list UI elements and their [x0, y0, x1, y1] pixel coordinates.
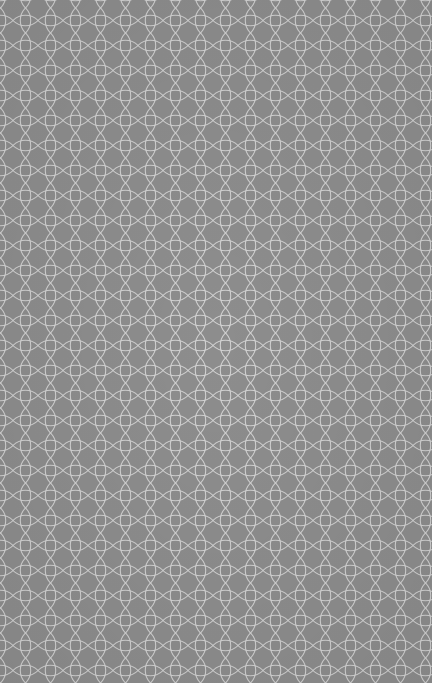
circle-pattern-background [0, 0, 432, 683]
vignette [0, 0, 432, 683]
